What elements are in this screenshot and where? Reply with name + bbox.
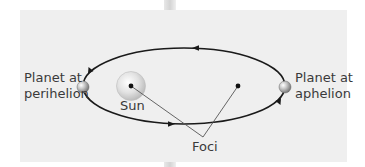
perihelion-label-line2: perihelion	[24, 86, 89, 102]
perihelion-label: Planet at perihelion	[24, 70, 89, 102]
focus-dot-sun-icon	[129, 84, 134, 89]
aphelion-label: Planet at aphelion	[295, 70, 353, 102]
focus-dot-empty-icon	[236, 84, 241, 89]
planet-aphelion-icon	[279, 81, 291, 93]
orbit-ellipse	[83, 48, 285, 124]
orbit-arrow-top-icon	[192, 45, 199, 50]
aphelion-label-line1: Planet at	[295, 70, 353, 86]
perihelion-label-line1: Planet at	[24, 70, 89, 86]
foci-label: Foci	[192, 139, 218, 155]
sun-label: Sun	[120, 98, 145, 114]
aphelion-label-line2: aphelion	[295, 86, 353, 102]
orbit-arrow-bottom-icon	[168, 121, 175, 126]
orbit-diagram: Planet at perihelion Planet at aphelion …	[0, 0, 365, 167]
foci-pointer-line-empty	[203, 86, 238, 137]
